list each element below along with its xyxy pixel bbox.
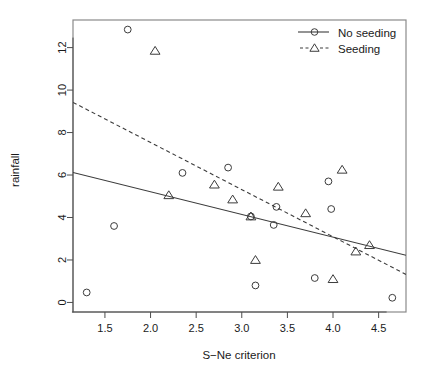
point-marker-circle [83, 289, 90, 296]
point-marker-circle [325, 178, 332, 185]
legend-marker-triangle [310, 44, 319, 51]
x-tick-label: 2.5 [189, 322, 204, 334]
point-marker-triangle [337, 165, 347, 173]
point-marker-circle [124, 26, 131, 33]
scatter-plot: 1.52.02.53.03.54.04.5 024681012 No seedi… [0, 0, 423, 385]
x-tick-label: 3.0 [234, 322, 249, 334]
point-marker-circle [225, 164, 232, 171]
x-axis-title: S−Ne criterion [202, 349, 275, 361]
x-tick-label: 4.5 [371, 322, 386, 334]
point-marker-circle [252, 282, 259, 289]
y-tick-label: 2 [56, 257, 68, 263]
y-tick-label: 8 [56, 129, 68, 135]
y-axis-ticks: 024681012 [56, 38, 73, 313]
fit-line-triangle [73, 102, 406, 274]
point-marker-circle [179, 170, 186, 177]
y-tick-label: 0 [56, 299, 68, 305]
x-tick-label: 3.5 [280, 322, 295, 334]
data-points [83, 26, 395, 301]
legend-label-2: Seeding [338, 43, 380, 55]
legend: No seedingSeeding [298, 27, 396, 55]
legend-label-1: No seeding [338, 27, 396, 39]
point-marker-circle [328, 206, 335, 213]
y-tick-label: 12 [56, 41, 68, 53]
x-axis-ticks: 1.52.02.53.03.54.04.5 [72, 312, 387, 334]
plot-box [73, 20, 406, 312]
point-marker-triangle [273, 182, 283, 190]
point-marker-circle [311, 275, 318, 282]
regression-lines [73, 102, 406, 274]
chart-page: 1.52.02.53.03.54.04.5 024681012 No seedi… [0, 0, 423, 385]
point-marker-triangle [210, 180, 220, 188]
fit-line-circle [73, 172, 406, 255]
point-marker-triangle [228, 195, 238, 203]
y-axis-title: rainfall [9, 153, 21, 187]
x-tick-label: 1.5 [97, 322, 112, 334]
point-marker-circle [111, 223, 118, 230]
y-tick-label: 6 [56, 172, 68, 178]
point-marker-triangle [150, 46, 160, 54]
y-tick-label: 10 [56, 84, 68, 96]
point-marker-triangle [251, 256, 261, 264]
x-tick-label: 2.0 [143, 322, 158, 334]
plot-frame [73, 20, 406, 312]
point-marker-circle [389, 294, 396, 301]
y-tick-label: 4 [56, 214, 68, 220]
point-marker-triangle [301, 209, 311, 217]
x-tick-label: 4.0 [325, 322, 340, 334]
point-marker-triangle [328, 275, 338, 283]
